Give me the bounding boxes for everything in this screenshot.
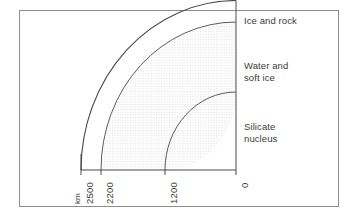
layer-label-water-and-soft-ice: Water and soft ice bbox=[244, 60, 288, 84]
axis-unit-label: km bbox=[73, 193, 82, 204]
axis-tick-label-2200: 2200 bbox=[104, 182, 115, 204]
axis-tick-marks bbox=[81, 170, 236, 175]
axis-tick-label-2500: 2500 bbox=[84, 182, 95, 204]
axis-tick-label-1200: 1200 bbox=[168, 182, 179, 204]
figure-root: km 2500 2200 1200 0 Ice and rock Water a… bbox=[0, 0, 355, 218]
layer-label-ice-and-rock: Ice and rock bbox=[244, 15, 297, 27]
layer-label-silicate-nucleus: Silicate nucleus bbox=[244, 121, 277, 145]
axis-tick-label-0: 0 bbox=[239, 183, 250, 188]
water-and-soft-ice-shell bbox=[101, 22, 236, 170]
